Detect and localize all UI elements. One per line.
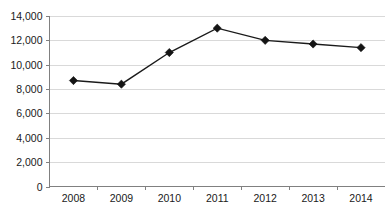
y-axis-tick-label: 6,000 — [16, 107, 42, 119]
x-axis-tick-label: 2008 — [62, 192, 86, 204]
y-axis-tick-label: 2,000 — [16, 156, 42, 168]
x-axis-tick-label: 2013 — [301, 192, 325, 204]
y-axis-tick-label: 12,000 — [10, 34, 42, 46]
x-axis-tick-label: 2014 — [349, 192, 373, 204]
chart-canvas: 02,0004,0006,0008,00010,00012,00014,000 … — [0, 0, 391, 215]
y-axis-tick-label: 10,000 — [10, 59, 42, 71]
x-axis-tick-label: 2011 — [206, 192, 229, 204]
y-axis-tick-label: 8,000 — [16, 83, 42, 95]
chart-background — [0, 0, 391, 215]
y-axis-tick-label: 4,000 — [16, 132, 42, 144]
x-axis-tick-label: 2010 — [158, 192, 182, 204]
line-chart-figure: 02,0004,0006,0008,00010,00012,00014,000 … — [0, 0, 391, 215]
x-axis-tick-label: 2009 — [110, 192, 134, 204]
x-axis-tick-label: 2012 — [253, 192, 277, 204]
y-axis-tick-label: 0 — [37, 181, 43, 193]
y-axis-tick-label: 14,000 — [10, 10, 42, 22]
